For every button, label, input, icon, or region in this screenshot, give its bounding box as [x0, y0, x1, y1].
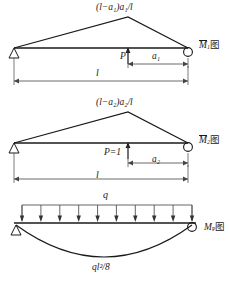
panel-m2-graphics — [0, 95, 230, 190]
load-arrow — [190, 205, 194, 222]
moment-diagram-outline-2 — [14, 112, 188, 143]
roller-support-icon-2 — [184, 143, 193, 152]
pin-support-icon-1 — [9, 48, 19, 58]
peak-label-m1: (l−a₁)a₁/l — [96, 3, 133, 13]
load-label-m2: P=1 — [104, 148, 121, 158]
load-label-m1: P — [120, 52, 126, 62]
m2-bar-symbol: M — [199, 135, 207, 146]
dim-label-l-1: l — [96, 68, 99, 78]
diagram-label-m1: M1图 — [199, 40, 220, 51]
dim-label-a2: a₂ — [152, 155, 160, 165]
dim-arrow-a2-right — [183, 161, 188, 166]
dim-label-l-2: l — [96, 170, 99, 180]
m1-bar-symbol: M — [199, 40, 207, 51]
dim-arrow-l2-left — [14, 177, 19, 182]
dim-arrow-l2-right — [183, 177, 188, 182]
dim-arrow-a1-left — [128, 62, 133, 67]
load-arrow — [95, 205, 99, 222]
moment-diagram-outline-1 — [14, 17, 188, 48]
dim-arrow-l1-left — [14, 79, 19, 84]
load-arrow — [133, 205, 137, 222]
diagram-label-mp: MP图 — [204, 222, 225, 233]
load-arrow — [77, 205, 81, 222]
m2-suffix: 图 — [210, 134, 220, 145]
load-arrow — [20, 205, 24, 222]
load-arrow — [114, 205, 118, 222]
dim-label-a1: a₁ — [152, 52, 160, 62]
parabolic-moment-curve — [16, 225, 192, 257]
load-arrow — [58, 205, 62, 222]
distributed-load-arrows — [20, 205, 194, 222]
dim-arrow-a1-right — [183, 62, 188, 67]
peak-label-mp: ql²/8 — [92, 263, 110, 273]
peak-label-m2: (l−a₂)a₂/l — [96, 98, 133, 108]
dim-arrow-a2-left — [128, 161, 133, 166]
diagram-label-m2: M2图 — [199, 135, 220, 146]
panel-mp-graphics — [0, 185, 230, 284]
roller-support-icon-1 — [184, 48, 193, 57]
distributed-load-label-q: q — [103, 190, 108, 200]
load-arrow — [152, 205, 156, 222]
mp-symbol: M — [204, 222, 212, 232]
pin-support-icon-3 — [11, 225, 21, 235]
mp-suffix: 图 — [215, 221, 225, 232]
load-arrow — [171, 205, 175, 222]
dim-arrow-l1-right — [183, 79, 188, 84]
panel-m1-graphics — [0, 0, 230, 95]
pin-support-icon-2 — [9, 143, 19, 153]
m1-suffix: 图 — [210, 39, 220, 50]
load-arrow — [39, 205, 43, 222]
figure-canvas: (l−a₁)a₁/l P a₁ l M1图 (l−a₂)a₂/l P=1 — [0, 0, 230, 284]
